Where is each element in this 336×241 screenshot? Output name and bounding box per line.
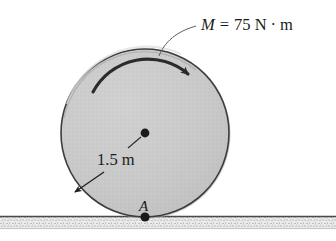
moment-unit: m [280, 15, 293, 34]
disk-center-dot [141, 129, 150, 138]
radius-label: 1.5 m [97, 150, 135, 169]
moment-value: 75 N [234, 15, 267, 34]
contact-point-dot [140, 212, 149, 221]
ground-hatch-band [0, 217, 336, 229]
contact-point-label: A [138, 198, 149, 214]
moment-dot-operator: · [271, 15, 277, 34]
physics-diagram-rolling-disk: M=75 N·m 1.5 m A [0, 0, 336, 241]
moment-label: M=75 N·m [200, 15, 293, 34]
moment-symbol: M [200, 15, 216, 34]
moment-equals: = [220, 15, 229, 34]
ground-surface [0, 217, 336, 230]
